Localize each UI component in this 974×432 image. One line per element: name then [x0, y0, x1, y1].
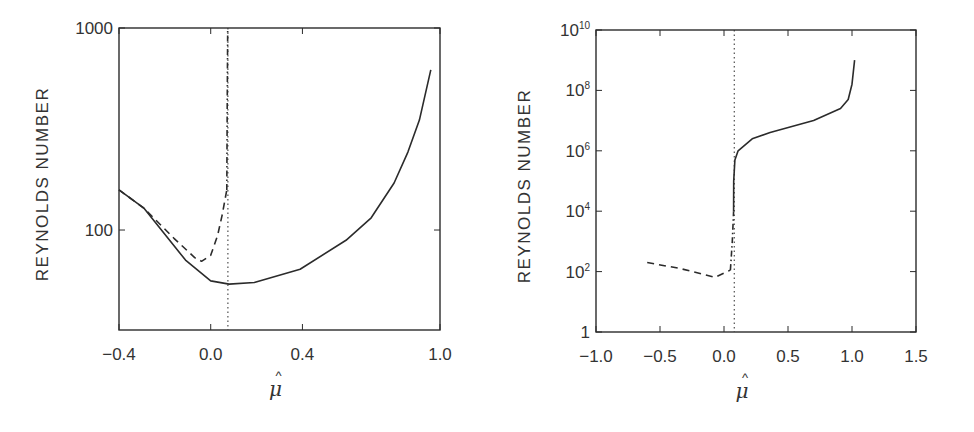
x-tick-label: 1.5 [904, 347, 928, 366]
x-tick-label: 0.0 [199, 345, 223, 364]
x-tick-label: 1.0 [840, 347, 864, 366]
series-dash-dot [227, 28, 228, 190]
series-solid [734, 60, 855, 211]
x-tick-label: −0.4 [102, 345, 136, 364]
y-tick-label: 102 [566, 262, 591, 282]
y-tick-label: 1010 [560, 20, 590, 40]
y-tick-label: 100 [85, 221, 113, 240]
plot-frame [596, 30, 916, 332]
y-tick-label: 108 [566, 80, 591, 100]
x-tick-label: 0.4 [291, 345, 315, 364]
series-dashed [647, 263, 730, 278]
y-axis-label: REYNOLDS NUMBER [33, 87, 52, 281]
y-tick-label: 104 [566, 201, 591, 221]
x-axis-label: μ [736, 379, 749, 403]
y-axis-label: REYNOLDS NUMBER [515, 89, 534, 283]
y-tick-label: 106 [566, 141, 591, 161]
series-dash-dot [730, 211, 733, 270]
x-tick-label: 0.0 [712, 347, 736, 366]
x-tick-label: 1.0 [428, 345, 452, 364]
right-chart: −1.0−0.50.00.51.01.511021041061081010REY… [515, 20, 928, 403]
y-tick-label: 1000 [75, 19, 113, 38]
x-tick-label: −0.5 [643, 347, 677, 366]
left-chart: −0.40.00.41.01001000REYNOLDS NUMBER^μ [33, 19, 452, 401]
series-dashed [119, 190, 227, 261]
plot-frame [119, 28, 440, 330]
x-tick-label: 0.5 [776, 347, 800, 366]
figure: −0.40.00.41.01001000REYNOLDS NUMBER^μ −1… [0, 0, 974, 432]
x-tick-label: −1.0 [579, 347, 613, 366]
x-axis-label: μ [269, 377, 282, 401]
y-tick-label: 1 [581, 323, 590, 342]
series-solid [119, 70, 431, 284]
